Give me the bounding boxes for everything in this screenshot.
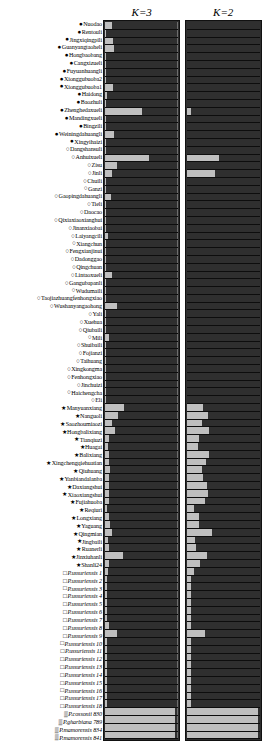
cluster-segment-2 xyxy=(191,700,260,707)
accession-name: P.ussuriensis 2 xyxy=(67,578,102,584)
admixture-bar xyxy=(187,474,260,482)
accession-name: Rentouli xyxy=(82,29,102,35)
admixture-bar xyxy=(187,396,260,404)
cluster-segment-3 xyxy=(177,513,178,520)
accession-name: Qingmian xyxy=(78,531,102,537)
cluster-segment-3 xyxy=(177,240,178,247)
admixture-bar xyxy=(105,490,178,498)
admixture-bar xyxy=(187,123,260,131)
admixture-bar xyxy=(187,349,260,357)
admixture-bar xyxy=(105,147,178,155)
star-icon xyxy=(76,562,81,568)
cluster-segment-3 xyxy=(177,155,178,162)
open-circle-icon xyxy=(65,280,69,286)
cluster-segment-2 xyxy=(114,131,176,138)
admixture-bar xyxy=(105,53,178,61)
cluster-segment-3 xyxy=(177,69,178,76)
accession-label: Huagai xyxy=(0,444,102,452)
cluster-segment-2 xyxy=(187,209,260,216)
accession-name: Xingchengqiehuatian xyxy=(52,460,102,466)
cluster-segment-3 xyxy=(177,669,178,676)
cluster-segment-3 xyxy=(177,217,178,224)
admixture-bar xyxy=(187,388,260,396)
admixture-bar xyxy=(187,53,260,61)
cluster-segment-3 xyxy=(177,466,178,473)
cluster-segment-2 xyxy=(191,677,260,684)
cluster-segment-2 xyxy=(117,630,176,637)
admixture-bar xyxy=(105,77,178,85)
accession-label: Xionggubuoba1 xyxy=(0,83,102,91)
cluster-segment-2 xyxy=(187,365,260,372)
admixture-bar xyxy=(105,287,178,295)
accession-name: Mandingxueli xyxy=(69,115,102,121)
accession-name: Gaopingdahuangli xyxy=(59,193,102,199)
admixture-bar xyxy=(105,537,178,545)
accession-label: Nanguoli xyxy=(0,412,102,420)
cluster-segment-1 xyxy=(187,544,196,551)
accession-label: Fenhongxiao xyxy=(0,373,102,381)
admixture-bar xyxy=(187,607,260,615)
cluster-segment-1 xyxy=(187,474,203,481)
cluster-segment-3 xyxy=(177,482,178,489)
accession-name: Mili xyxy=(92,335,102,341)
accession-label: Zhenghedaxueli xyxy=(0,106,102,114)
hatched-icon xyxy=(59,719,63,726)
accession-name: Qiuhuang xyxy=(79,468,102,474)
admixture-bar xyxy=(105,404,178,412)
cluster-segment-1 xyxy=(105,162,117,169)
admixture-panel-k3 xyxy=(103,20,180,741)
cluster-segment-3 xyxy=(177,170,178,177)
cluster-segment-2 xyxy=(208,490,260,497)
cluster-segment-3 xyxy=(177,568,178,575)
cluster-segment-3 xyxy=(177,381,178,388)
admixture-bar xyxy=(105,342,178,350)
cluster-segment-3 xyxy=(177,279,178,286)
cluster-segment-2 xyxy=(142,108,177,115)
filled-circle-icon xyxy=(60,107,64,113)
cluster-segment-2 xyxy=(112,420,176,427)
cluster-segment-3 xyxy=(177,388,178,395)
cluster-segment-2 xyxy=(112,529,176,536)
star-icon xyxy=(60,421,65,427)
cluster-segment-2 xyxy=(106,342,176,349)
accession-name: Qingchuan xyxy=(76,264,102,270)
accession-name: Wushanyangaohong xyxy=(54,303,102,309)
accession-label: P.ussuriensis 18 xyxy=(0,702,102,710)
accession-label: Taihuang xyxy=(0,357,102,365)
accession-name: Nanguoli xyxy=(80,413,102,419)
cluster-segment-2 xyxy=(106,147,176,154)
accession-label: Eli xyxy=(0,397,102,405)
cluster-segment-2 xyxy=(109,334,177,341)
admixture-bar xyxy=(105,233,178,241)
cluster-segment-2 xyxy=(109,544,177,551)
admixture-bar xyxy=(187,732,260,740)
accession-label: Tieli xyxy=(0,200,102,208)
cluster-segment-3 xyxy=(177,599,178,606)
accession-name: Dadonggao xyxy=(75,256,102,262)
admixture-bar xyxy=(187,194,260,202)
cluster-segment-2 xyxy=(191,685,260,692)
accession-label: P.cossonii 830 xyxy=(0,710,102,718)
cluster-segment-2 xyxy=(106,373,176,380)
admixture-bar xyxy=(187,599,260,607)
cluster-segment-1 xyxy=(105,404,124,411)
accession-label: Xingkongma xyxy=(0,365,102,373)
admixture-bar xyxy=(105,69,178,77)
cluster-segment-1 xyxy=(105,38,113,45)
admixture-bar xyxy=(187,225,260,233)
accession-name: Wudumaili xyxy=(76,288,102,294)
cluster-segment-3 xyxy=(177,186,178,193)
admixture-bar xyxy=(105,451,178,459)
admixture-bar xyxy=(187,248,260,256)
accession-label: P.ussuriensis 11 xyxy=(0,648,102,656)
cluster-segment-3 xyxy=(177,178,178,185)
accession-label: Guanyangtaoheli xyxy=(0,44,102,52)
accession-label: Haidong xyxy=(0,91,102,99)
accession-name: P.ussuriensis 9 xyxy=(67,633,102,639)
accession-name: P.ussuriensis 16 xyxy=(64,688,102,694)
cluster-segment-2 xyxy=(106,100,176,107)
open-circle-icon xyxy=(79,350,83,356)
cluster-segment-2 xyxy=(107,576,176,583)
cluster-segment-3 xyxy=(177,537,178,544)
admixture-bar xyxy=(187,318,260,326)
